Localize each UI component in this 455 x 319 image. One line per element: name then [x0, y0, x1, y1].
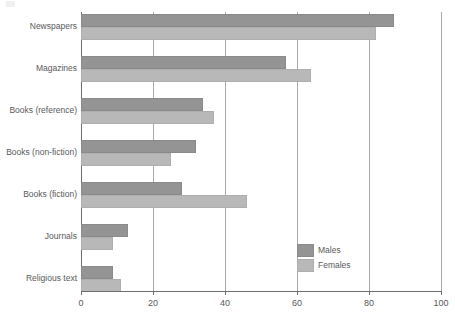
- bar-females-0: [81, 27, 376, 40]
- bar-females-3: [81, 153, 171, 166]
- x-tick-mark-20: [153, 291, 154, 295]
- legend-item-males: Males: [297, 243, 359, 258]
- category-label-5: Journals: [1, 231, 77, 242]
- bar-males-4: [81, 182, 182, 195]
- category-label-4: Books (fiction): [1, 189, 77, 200]
- x-tick-mark-0: [81, 291, 82, 295]
- category-label-3: Books (non-fiction): [1, 147, 77, 158]
- chart-legend: Males Females: [297, 243, 359, 273]
- x-tick-label-80: 80: [349, 298, 389, 309]
- legend-label-males: Males: [318, 245, 341, 256]
- x-tick-label-40: 40: [205, 298, 245, 309]
- legend-swatch-females-icon: [297, 259, 314, 272]
- category-label-0: Newspapers: [1, 21, 77, 32]
- x-tick-label-100: 100: [421, 298, 455, 309]
- gridline-x-80: [369, 12, 370, 291]
- x-tick-mark-40: [225, 291, 226, 295]
- category-label-6: Religious text: [1, 273, 77, 284]
- bar-females-1: [81, 69, 311, 82]
- category-label-1: Magazines: [1, 63, 77, 74]
- x-tick-label-60: 60: [277, 298, 317, 309]
- gridline-x-100: [441, 12, 442, 291]
- bar-males-3: [81, 140, 196, 153]
- legend-swatch-males-icon: [297, 244, 314, 257]
- bar-females-5: [81, 237, 113, 250]
- bar-females-2: [81, 111, 214, 124]
- gridline-x-40: [225, 12, 226, 291]
- x-tick-mark-100: [441, 291, 442, 295]
- bar-males-0: [81, 14, 394, 27]
- x-tick-mark-80: [369, 291, 370, 295]
- bar-males-5: [81, 224, 128, 237]
- x-tick-label-20: 20: [133, 298, 173, 309]
- legend-item-females: Females: [297, 258, 359, 273]
- category-axis-labels: NewspapersMagazinesBooks (reference)Book…: [0, 0, 77, 319]
- bar-males-2: [81, 98, 203, 111]
- x-tick-label-0: 0: [61, 298, 101, 309]
- x-axis-line: [81, 291, 442, 292]
- legend-label-females: Females: [318, 260, 351, 271]
- bar-females-4: [81, 195, 247, 208]
- category-label-2: Books (reference): [1, 105, 77, 116]
- plot-area: [81, 12, 441, 291]
- bar-males-1: [81, 56, 286, 69]
- bar-males-6: [81, 266, 113, 279]
- bar-chart: NewspapersMagazinesBooks (reference)Book…: [0, 0, 455, 319]
- x-tick-mark-60: [297, 291, 298, 295]
